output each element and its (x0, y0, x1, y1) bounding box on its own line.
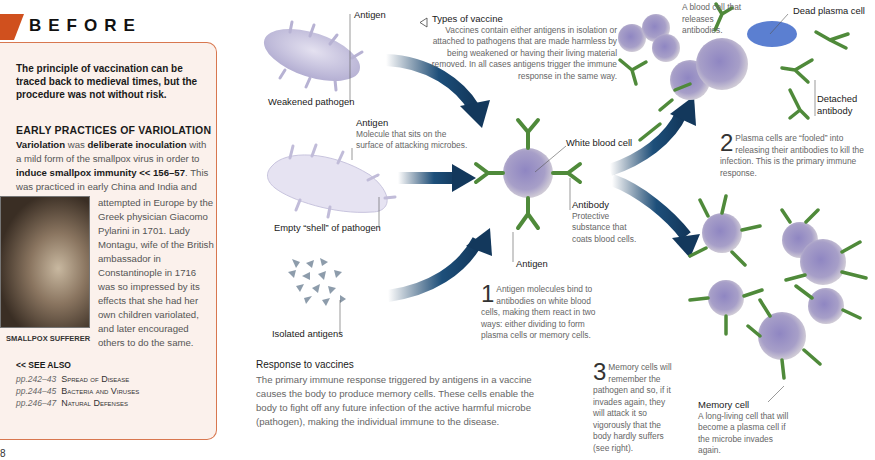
caption-title: Types of vaccine (417, 13, 617, 25)
step-number: 1 (481, 284, 494, 304)
label-heading: Antigen (356, 117, 476, 129)
isolated-antigens-icon (288, 258, 346, 306)
label-desc: Molecule that sits on the surface of att… (356, 129, 476, 152)
step-1: 1Antigen molecules bind to antibodies on… (481, 284, 601, 342)
step-2: 2Plasma cells are “fooled” into releasin… (720, 133, 870, 179)
label-dead-plasma-cell: Dead plasma cell (793, 5, 865, 16)
dead-plasma-cell-icon (747, 21, 797, 47)
label-antigen-top: Antigen (354, 9, 386, 20)
label-isolated-antigens: Isolated antigens (272, 328, 343, 339)
label-desc: A long-living cell that will become a pl… (698, 411, 798, 457)
label-memory-cell: Memory cellA long-living cell that will … (698, 399, 798, 457)
label-empty-shell: Empty “shell” of pathogen (274, 222, 381, 233)
response-heading: Response to vaccines (256, 359, 354, 370)
empty-shell-pathogen-icon (267, 145, 395, 217)
response-text: The primary immune response triggered by… (256, 373, 556, 429)
step-text: Plasma cells are “fooled” into releasing… (720, 133, 864, 178)
types-of-vaccine-caption: Types of vaccine Vaccines contain either… (417, 13, 617, 82)
label-antigen-mid: AntigenMolecule that sits on the surface… (356, 117, 476, 152)
step-text: Antigen molecules bind to antibodies on … (481, 284, 596, 340)
step-number: 2 (720, 133, 733, 153)
caption-text: Vaccines contain either antigens in isol… (417, 25, 617, 83)
label-plasma-cell: A blood cell that releases antibodies. (682, 2, 744, 37)
label-antibody: AntibodyProtective substance that coats … (572, 199, 642, 245)
memory-cells-icon (690, 196, 866, 378)
label-heading: Antibody (572, 199, 642, 211)
label-desc: Protective substance that coats blood ce… (572, 211, 642, 246)
white-blood-cell-icon (476, 120, 580, 228)
label-antigen-bottom: Antigen (516, 258, 548, 269)
step-number: 3 (593, 362, 606, 382)
label-white-blood-cell: White blood cell (566, 137, 632, 148)
label-weakened-pathogen: Weakened pathogen (268, 96, 354, 107)
label-heading: Memory cell (698, 399, 798, 411)
step-3: 3Memory cells will remember the pathogen… (593, 362, 675, 454)
label-detached-antibody: Detached antibody (817, 93, 865, 117)
